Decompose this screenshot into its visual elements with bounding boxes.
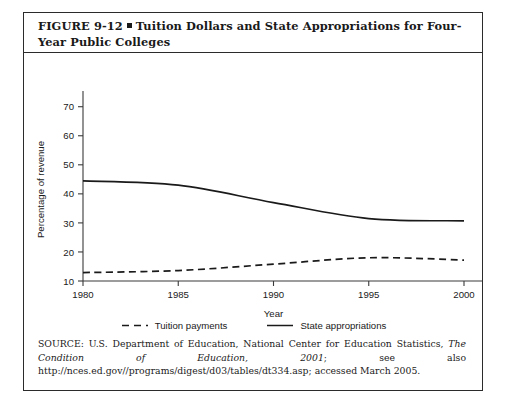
source-suffix: ; accessed March 2005.: [309, 365, 421, 376]
x-axis-tick-label: 2000: [453, 289, 474, 300]
y-axis-tick-label: 20: [63, 247, 74, 258]
source-url: http://nces.ed.gov//programs/digest/d03/…: [38, 365, 309, 376]
x-axis-tick-label: 1990: [263, 289, 284, 300]
legend-item-tuition-payments: Tuition payments: [122, 320, 228, 331]
figure-number: FIGURE 9-12: [38, 19, 123, 33]
y-axis-tick-label: 70: [63, 101, 74, 112]
series-line-state-appropriations: [83, 181, 464, 221]
x-axis-tick-label: 1985: [168, 289, 189, 300]
y-axis-tick-label: 40: [63, 188, 74, 199]
source-prefix: SOURCE: U.S. Department of Education, Na…: [38, 338, 448, 349]
x-axis-tick-label: 1980: [72, 289, 93, 300]
figure-title-block: FIGURE 9-12Tuition Dollars and State App…: [24, 13, 482, 53]
x-axis-tick-label: 1995: [358, 289, 379, 300]
legend-label-state-appropriations: State appropriations: [300, 320, 386, 331]
y-axis-tick-label: 10: [63, 276, 74, 287]
series-line-tuition-payments: [83, 258, 464, 273]
line-chart-svg: 1020304050607019801985199019952000YearPe…: [24, 53, 484, 323]
y-axis-tick-label: 50: [63, 159, 74, 170]
source-note: SOURCE: U.S. Department of Education, Na…: [38, 337, 466, 378]
y-axis-title: Percentage of revenue: [35, 141, 46, 238]
chart-plot-area: 1020304050607019801985199019952000YearPe…: [24, 53, 484, 323]
source-middle: ; see also: [324, 352, 466, 363]
chart-legend: Tuition payments State appropriations: [24, 313, 484, 337]
legend-item-state-appropriations: State appropriations: [267, 320, 386, 331]
square-bullet-icon: [127, 23, 132, 28]
dashed-line-icon: [122, 321, 148, 330]
y-axis-tick-label: 60: [63, 130, 74, 141]
page-title: FIGURE 9-12Tuition Dollars and State App…: [38, 19, 468, 50]
legend-label-tuition-payments: Tuition payments: [155, 320, 228, 331]
solid-line-icon: [267, 321, 293, 330]
figure-container: FIGURE 9-12Tuition Dollars and State App…: [23, 12, 483, 391]
y-axis-tick-label: 30: [63, 218, 74, 229]
